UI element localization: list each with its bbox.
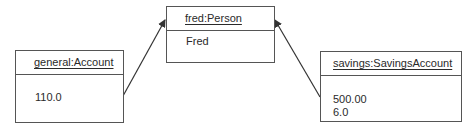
object-savings-account[interactable]: savings:SavingsAccount 500.00 6.0	[320, 51, 462, 122]
object-name: savings:SavingsAccount	[333, 57, 452, 69]
object-header: general:Account	[16, 51, 123, 75]
link-savings-to-fred	[275, 20, 320, 97]
object-header: savings:SavingsAccount	[321, 52, 461, 76]
object-values: 110.0	[35, 91, 62, 104]
value-name: Fred	[186, 35, 209, 48]
value-balance: 110.0	[35, 91, 62, 104]
object-values: Fred	[186, 35, 209, 48]
object-name: fred:Person	[185, 12, 242, 24]
object-general-account[interactable]: general:Account 110.0	[15, 50, 124, 123]
object-name: general:Account	[34, 56, 114, 68]
object-values: 500.00 6.0	[333, 93, 367, 119]
object-fred-person[interactable]: fred:Person Fred	[166, 6, 275, 63]
link-general-to-fred	[123, 20, 165, 96]
object-header: fred:Person	[167, 7, 274, 31]
value-rate: 6.0	[333, 106, 367, 119]
value-balance: 500.00	[333, 93, 367, 106]
